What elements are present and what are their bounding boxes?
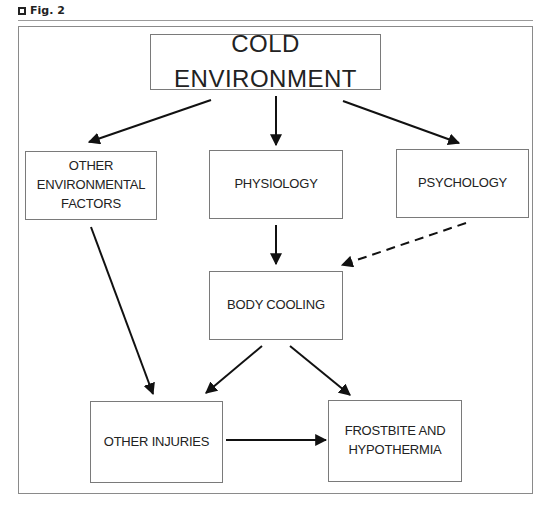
edge-psychology-to-body-cooling	[342, 223, 466, 265]
node-other-environmental-factors-label: OTHER ENVIRONMENTAL FACTORS	[36, 157, 146, 214]
node-psychology: PSYCHOLOGY	[396, 149, 529, 218]
edge-body-cooling-to-frostbite	[290, 346, 350, 395]
node-other-injuries-label: OTHER INJURIES	[104, 433, 210, 452]
node-frostbite-hypothermia-label: FROSTBITE AND HYPOTHERMIA	[343, 422, 448, 460]
node-other-injuries: OTHER INJURIES	[90, 401, 223, 483]
node-body-cooling: BODY COOLING	[209, 271, 343, 340]
edge-body-cooling-to-other-injuries	[206, 346, 262, 393]
node-cold-environment: COLD ENVIRONMENT	[150, 34, 381, 90]
node-physiology-label: PHYSIOLOGY	[234, 175, 317, 194]
edge-cold-to-psychology	[343, 101, 459, 143]
edge-other-env-to-other-injuries	[91, 227, 153, 394]
node-frostbite-hypothermia: FROSTBITE AND HYPOTHERMIA	[328, 400, 462, 482]
node-physiology: PHYSIOLOGY	[209, 150, 343, 219]
node-cold-environment-label: COLD ENVIRONMENT	[151, 27, 380, 97]
node-body-cooling-label: BODY COOLING	[227, 296, 325, 315]
node-other-environmental-factors: OTHER ENVIRONMENTAL FACTORS	[25, 151, 157, 220]
node-psychology-label: PSYCHOLOGY	[418, 174, 507, 193]
edge-cold-to-other-env	[89, 100, 211, 142]
